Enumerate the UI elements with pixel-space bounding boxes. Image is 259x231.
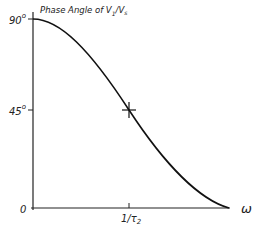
phase-angle-chart: 90o 45o 0 1/τ2 ω Phase Angle of V1/Vs (0, 0, 259, 231)
y-label-45: 45o (9, 103, 26, 117)
y-label-0: 0 (20, 204, 26, 215)
y-label-90: 90o (9, 12, 26, 26)
x-axis-label-omega: ω (241, 201, 252, 216)
cross-marker (122, 102, 136, 118)
x-label-1-tau2: 1/τ2 (121, 213, 142, 226)
chart-title: Phase Angle of V1/Vs (40, 5, 127, 17)
phase-curve (33, 19, 229, 208)
